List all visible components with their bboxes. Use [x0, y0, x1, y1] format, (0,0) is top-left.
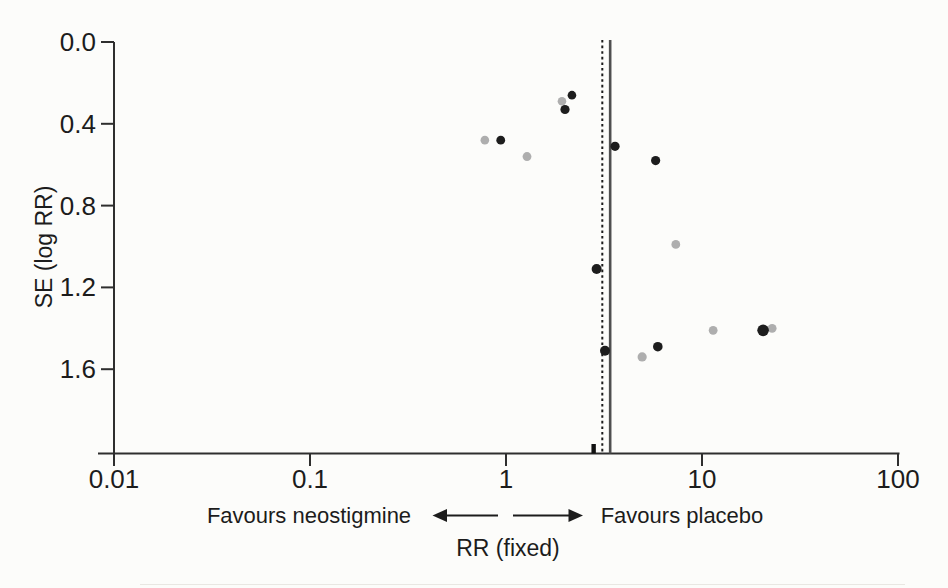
y-tick-label: 0.8: [60, 191, 96, 221]
data-point-grey: [558, 97, 567, 106]
y-axis-title: SE (log RR): [31, 186, 58, 309]
x-tick-label: 1: [499, 464, 513, 494]
data-point-black: [568, 91, 577, 100]
data-point-black: [651, 156, 660, 165]
favours-placebo-label: Favours placebo: [601, 503, 764, 529]
data-point-grey: [768, 324, 777, 333]
favours-neostigmine-label: Favours neostigmine: [207, 503, 411, 529]
x-tick-label: 10: [688, 464, 717, 494]
funnel-plot-figure: 0.010.11101000.00.40.81.21.6 SE (log RR)…: [0, 0, 948, 588]
data-point-black: [653, 342, 663, 352]
data-point-black: [757, 325, 769, 337]
x-tick-label: 0.01: [89, 464, 140, 494]
favours-right-arrowhead: [569, 509, 584, 522]
y-tick-label: 0.0: [60, 27, 96, 57]
data-point-black: [496, 136, 505, 145]
data-point-grey: [709, 326, 718, 335]
x-tick-label: 0.1: [292, 464, 328, 494]
x-axis-title: RR (fixed): [456, 535, 560, 562]
data-point-black: [560, 105, 569, 114]
favours-left-arrowhead: [433, 509, 448, 522]
scan-artifact-line: [140, 584, 905, 585]
data-point-black: [592, 264, 602, 274]
y-tick-label: 1.6: [60, 354, 96, 384]
data-point-grey: [671, 240, 680, 249]
data-point-grey: [523, 152, 532, 161]
data-point-black: [600, 346, 610, 356]
data-point-black: [610, 142, 619, 151]
data-point-grey: [481, 136, 490, 145]
data-point-grey: [638, 352, 647, 361]
x-tick-label: 100: [876, 464, 919, 494]
funnel-plot-canvas: 0.010.11101000.00.40.81.21.6: [0, 0, 948, 588]
y-tick-label: 0.4: [60, 109, 96, 139]
pooled-estimate-marker: [591, 444, 595, 454]
y-tick-label: 1.2: [60, 272, 96, 302]
